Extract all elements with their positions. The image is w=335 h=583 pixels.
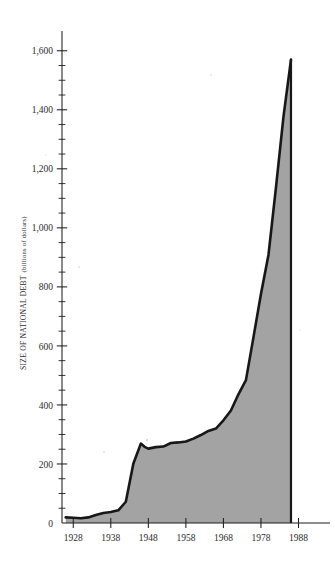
x-axis-tick-label: 1948 bbox=[139, 533, 158, 543]
y-axis-title-units: (billions of dollars) bbox=[20, 216, 28, 272]
x-axis-tick-label: 1968 bbox=[214, 533, 233, 543]
chart-figure: 02004006008001,0001,2001,4001,600 192819… bbox=[0, 0, 335, 583]
x-axis-tick-label: 1928 bbox=[64, 533, 83, 543]
y-axis-title-main: SIZE OF NATIONAL DEBT bbox=[19, 275, 28, 370]
y-axis-tick-label: 200 bbox=[39, 460, 54, 470]
x-axis-tick-label: 1978 bbox=[251, 533, 270, 543]
y-axis-tick-label: 1,400 bbox=[32, 105, 54, 115]
national-debt-area-chart: 02004006008001,0001,2001,4001,600 192819… bbox=[0, 0, 335, 583]
y-axis-tick-label: 800 bbox=[39, 282, 54, 292]
y-axis-tick-label: 1,200 bbox=[32, 164, 54, 174]
x-axis-tick-label: 1938 bbox=[101, 533, 120, 543]
x-axis-tick-label: 1988 bbox=[289, 533, 308, 543]
y-axis-title: SIZE OF NATIONAL DEBT(billions of dollar… bbox=[19, 216, 28, 370]
y-axis-tick-label: 400 bbox=[39, 401, 54, 411]
svg-text:SIZE OF NATIONAL DEBT(billions: SIZE OF NATIONAL DEBT(billions of dollar… bbox=[19, 216, 28, 370]
y-axis-tick-label: 600 bbox=[39, 342, 54, 352]
y-axis-tick-label: 1,600 bbox=[32, 46, 54, 56]
x-axis-tick-label: 1958 bbox=[176, 533, 195, 543]
y-axis-tick-label: 1,000 bbox=[32, 223, 54, 233]
y-axis-tick-label: 0 bbox=[48, 519, 53, 529]
